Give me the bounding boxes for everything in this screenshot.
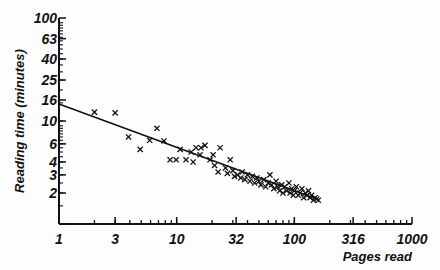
data-point-marker <box>216 169 221 174</box>
y-tick-label: 63 <box>41 31 57 47</box>
y-tick-label: 2 <box>48 185 57 201</box>
chart: 131032100316100023461016254063100 Pages … <box>0 0 440 270</box>
x-tick-label: 316 <box>341 231 365 247</box>
data-point-marker <box>92 110 97 115</box>
y-axis-title: Reading time (minutes) <box>12 49 27 193</box>
y-tick-label: 10 <box>41 113 57 129</box>
y-tick-label: 40 <box>40 51 57 67</box>
x-tick-label: 32 <box>228 231 244 247</box>
data-point-marker <box>210 152 215 157</box>
data-point-marker <box>126 134 131 139</box>
data-point-marker <box>154 126 159 131</box>
x-tick-label: 1000 <box>396 231 427 247</box>
y-tick-label: 6 <box>49 136 57 152</box>
data-point-marker <box>286 180 291 185</box>
data-point-marker <box>212 163 217 168</box>
x-tick-label: 10 <box>169 231 185 247</box>
data-point-marker <box>267 172 272 177</box>
data-point-marker <box>247 179 252 184</box>
data-point-marker <box>316 198 321 203</box>
y-tick-label: 4 <box>48 154 57 170</box>
y-tick-label: 16 <box>41 92 57 108</box>
data-point-marker <box>174 157 179 162</box>
data-point-marker <box>147 138 152 143</box>
data-point-marker <box>218 145 223 150</box>
x-tick-label: 100 <box>283 231 307 247</box>
x-axis-title: Pages read <box>343 249 413 264</box>
tick-marks <box>59 18 412 224</box>
x-tick-label: 3 <box>111 231 119 247</box>
data-point-marker <box>138 147 143 152</box>
data-point-marker <box>168 157 173 162</box>
data-point-marker <box>113 110 118 115</box>
axes <box>59 18 412 224</box>
data-point-marker <box>228 157 233 162</box>
x-tick-label: 1 <box>55 231 63 247</box>
data-point-marker <box>223 165 228 170</box>
data-point-marker <box>191 159 196 164</box>
log-log-scatter-plot: 131032100316100023461016254063100 Pages … <box>0 0 440 270</box>
y-tick-label: 100 <box>34 10 58 26</box>
tick-labels: 131032100316100023461016254063100 <box>34 10 428 247</box>
data-point-marker <box>183 157 188 162</box>
data-point-marker <box>225 171 230 176</box>
data-points <box>92 110 321 203</box>
y-tick-label: 25 <box>40 72 57 88</box>
data-point-marker <box>193 145 198 150</box>
